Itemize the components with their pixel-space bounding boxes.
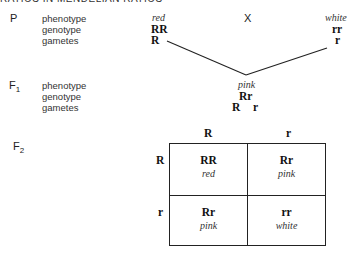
cell-phenotype: pink xyxy=(248,168,325,179)
cell-phenotype: red xyxy=(170,168,247,179)
punnett-col-header-r: r xyxy=(286,127,291,139)
f1-row-label-genotype: genotype xyxy=(42,91,81,102)
punnett-square: RR red Rr pink Rr pink rr white xyxy=(169,143,326,246)
f1-genotype: Rr xyxy=(239,90,252,102)
cell-genotype: RR xyxy=(170,154,247,166)
f1-label-subscript: 1 xyxy=(16,85,20,94)
punnett-cell-Rr-top: Rr pink xyxy=(248,144,325,195)
f2-generation-label: F2 xyxy=(13,140,24,155)
punnett-col-header-R: R xyxy=(204,127,212,139)
punnett-cell-Rr-bottom: Rr pink xyxy=(170,196,247,247)
f1-row-label-gametes: gametes xyxy=(42,102,78,113)
cell-phenotype: pink xyxy=(170,220,247,231)
punnett-row-header-r: r xyxy=(158,206,163,218)
cell-genotype: Rr xyxy=(170,206,247,218)
f1-phenotype: pink xyxy=(238,79,255,90)
f2-label-letter: F xyxy=(13,140,20,152)
f1-label-letter: F xyxy=(9,79,16,91)
cell-genotype: Rr xyxy=(248,154,325,166)
f2-label-subscript: 2 xyxy=(20,146,24,155)
punnett-cell-rr: rr white xyxy=(248,196,325,247)
f1-gamete-dominant: R xyxy=(232,101,240,113)
cross-line-left xyxy=(167,41,246,75)
cross-line-right xyxy=(246,48,327,75)
cross-lines xyxy=(0,0,355,80)
punnett-row-header-R: R xyxy=(156,154,164,166)
punnett-cell-RR: RR red xyxy=(170,144,247,195)
f1-row-label-phenotype: phenotype xyxy=(42,80,86,91)
cell-phenotype: white xyxy=(248,220,325,231)
f1-gamete-recessive: r xyxy=(253,101,258,113)
f1-generation-label: F1 xyxy=(9,79,20,94)
cell-genotype: rr xyxy=(248,206,325,218)
